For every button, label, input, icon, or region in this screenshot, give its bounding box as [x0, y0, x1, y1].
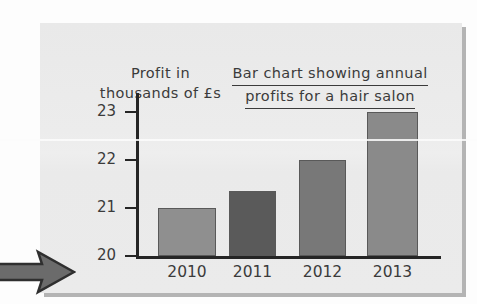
y-axis-line: [136, 93, 139, 259]
y-axis-label-line1: Profit in: [98, 63, 223, 83]
y-axis-label-line2: thousands of £s: [98, 83, 223, 103]
x-tick-label-2012: 2012: [288, 263, 358, 281]
x-tick-label-2010: 2010: [152, 263, 222, 281]
bar-2010: [158, 208, 216, 256]
y-tick-label-23: 23: [78, 102, 116, 120]
y-tick-20: [125, 255, 137, 257]
chart-panel: Profit in thousands of £s Bar chart show…: [40, 23, 462, 293]
x-tick-label-2013: 2013: [358, 263, 428, 281]
bar-2011: [229, 191, 276, 256]
y-tick-21: [125, 207, 137, 209]
y-tick-22: [125, 159, 137, 161]
x-axis-line: [136, 256, 441, 259]
chart-title-line1: Bar chart showing annual: [232, 63, 427, 86]
y-axis-label: Profit in thousands of £s: [98, 63, 223, 103]
bar-2013: [367, 112, 418, 256]
chart-title: Bar chart showing annual profits for a h…: [230, 63, 430, 109]
scanned-page: bar chart Questions following to this an…: [0, 0, 477, 304]
bar-2012: [299, 160, 346, 256]
y-tick-23: [125, 111, 137, 113]
y-tick-label-22: 22: [78, 150, 116, 168]
right-arrow-icon: [0, 248, 76, 296]
x-tick-label-2011: 2011: [218, 263, 288, 281]
chart-title-line2: profits for a hair salon: [245, 86, 415, 109]
y-tick-label-21: 21: [78, 198, 116, 216]
y-tick-label-20: 20: [78, 246, 116, 264]
